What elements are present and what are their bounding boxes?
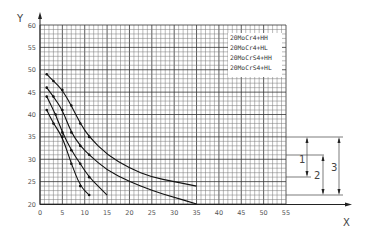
legend: 20MoCr4+HH 20MoCr4+HL 20MoCrS4+HH 20MoCr… [228,33,282,77]
y-tick-label: 30 [28,156,36,164]
data-point-marker [61,131,64,134]
data-point-marker [70,162,73,165]
data-point-marker [70,131,73,134]
data-point-marker [61,89,64,92]
legend-item-3: 20MoCrS4+HH [230,54,272,61]
arrow-up-icon [322,155,325,161]
data-point-marker [88,136,91,139]
data-point-marker [61,136,64,139]
dimension-label-3: 3 [331,162,337,173]
x-tick-label: 25 [148,209,156,217]
y-tick-label: 40 [28,111,36,119]
data-point-marker [45,86,48,89]
data-point-marker [70,104,73,107]
legend-item-4: 20MoCrS4+HL [230,64,272,71]
data-point-marker [79,145,82,148]
x-tick-label: 40 [215,209,223,217]
y-axis-label: Y [16,13,24,24]
data-point-marker [45,95,48,98]
data-point-marker [88,176,91,179]
legend-item-2: 20MoCr4+HL [230,44,268,51]
data-point-marker [52,122,55,125]
x-tick-labels: 0510152025303540455055 [38,209,290,217]
y-tick-label: 60 [28,22,36,30]
data-point-marker [79,162,82,165]
dimension-label-2: 2 [314,170,320,181]
x-tick-label: 5 [60,209,64,217]
x-tick-label: 45 [237,209,245,217]
y-tick-label: 45 [28,89,36,97]
y-axis-arrow-icon [38,12,42,19]
arrow-down-icon [322,189,325,195]
x-axis-arrow-icon [345,203,352,207]
y-tick-label: 50 [28,66,36,74]
data-point-marker [88,153,91,156]
data-point-marker [88,194,91,197]
data-point-marker [45,109,48,112]
y-tick-labels: 202530354045505560 [28,22,36,209]
x-tick-label: 55 [282,209,290,217]
x-tick-label: 20 [125,209,133,217]
data-point-marker [79,185,82,188]
x-tick-label: 35 [192,209,200,217]
data-point-marker [45,73,48,76]
y-tick-label: 20 [28,201,36,209]
y-tick-label: 55 [28,44,36,52]
data-point-marker [52,95,55,98]
arrow-down-icon [338,189,341,195]
x-axis-label: X [343,217,350,228]
y-tick-label: 35 [28,133,36,141]
arrow-up-icon [338,137,341,143]
legend-item-1: 20MoCr4+HH [230,34,268,41]
data-point-marker [54,113,57,116]
x-tick-label: 0 [38,209,42,217]
arrow-down-icon [306,171,309,177]
x-tick-label: 50 [259,209,267,217]
x-tick-label: 10 [81,209,89,217]
data-point-marker [79,122,82,125]
dimension-label-1: 1 [299,154,305,165]
data-point-marker [70,149,73,152]
x-tick-label: 15 [103,209,111,217]
arrow-up-icon [306,137,309,143]
hardenability-chart: Y X 202530354045505560 05101520253035404… [0,0,369,242]
data-point-marker [52,80,55,83]
y-tick-label: 25 [28,178,36,186]
x-tick-label: 30 [170,209,178,217]
data-point-marker [61,109,64,112]
